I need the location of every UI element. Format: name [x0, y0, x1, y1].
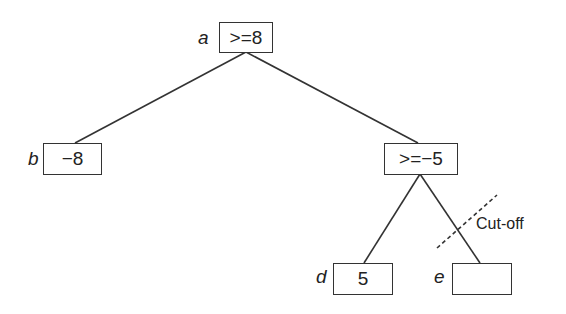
edge-c-d — [364, 174, 420, 263]
node-c: >=−5 — [384, 143, 458, 175]
cutoff-annotation: Cut-off — [476, 215, 524, 233]
node-d-label: d — [316, 266, 327, 288]
node-e-label: e — [434, 266, 445, 288]
node-b-label: b — [28, 148, 39, 170]
edge-a-b — [75, 52, 246, 143]
node-a-label: a — [198, 27, 209, 49]
node-a: >=8 — [219, 22, 273, 53]
node-b: −8 — [43, 143, 102, 175]
edge-a-c — [246, 52, 418, 143]
node-e — [452, 263, 512, 295]
node-d: 5 — [333, 263, 393, 295]
